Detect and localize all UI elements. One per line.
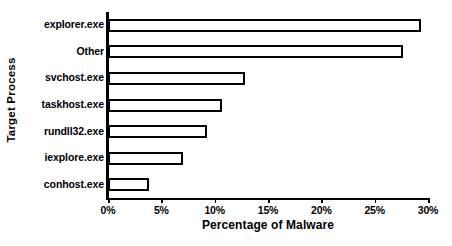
plot-area: 0%5%10%15%20%25%30% <box>108 12 428 198</box>
y-axis-tick-label: Other <box>76 46 104 57</box>
x-axis-tick <box>268 198 270 203</box>
bar <box>108 72 245 85</box>
x-axis-tick <box>215 198 217 203</box>
bar <box>108 99 222 112</box>
x-axis-tick <box>428 198 430 203</box>
x-axis-tick-label: 0% <box>88 204 128 216</box>
bar <box>108 125 207 138</box>
x-axis-tick <box>375 198 377 203</box>
y-axis-tick-label: rundll32.exe <box>44 126 104 137</box>
bar <box>108 19 421 32</box>
x-axis-tick-label: 5% <box>141 204 181 216</box>
bar-chart: Target Process explorer.exeOthersvchost.… <box>0 0 452 246</box>
x-axis-tick-label: 20% <box>301 204 341 216</box>
x-axis-tick-label: 10% <box>195 204 235 216</box>
x-axis-title: Percentage of Malware <box>108 218 428 232</box>
x-axis-tick-label: 25% <box>355 204 395 216</box>
x-axis-tick <box>161 198 163 203</box>
y-axis-tick-label: conhost.exe <box>44 179 104 190</box>
x-axis-tick-label: 30% <box>408 204 448 216</box>
bar <box>108 45 403 58</box>
y-axis-title: Target Process <box>0 0 22 200</box>
x-axis-line <box>106 198 428 200</box>
x-axis-tick <box>321 198 323 203</box>
y-axis-tick-label: svchost.exe <box>45 72 104 83</box>
x-axis-tick <box>108 198 110 203</box>
bar <box>108 178 149 191</box>
y-axis-title-text: Target Process <box>5 57 17 142</box>
y-axis-tick-label: explorer.exe <box>44 19 104 30</box>
x-axis-tick-label: 15% <box>248 204 288 216</box>
y-axis-tick-label: taskhost.exe <box>42 99 104 110</box>
y-axis-tick-labels: explorer.exeOthersvchost.exetaskhost.exe… <box>20 12 106 198</box>
y-axis-tick-label: iexplore.exe <box>44 152 104 163</box>
bar <box>108 152 183 165</box>
